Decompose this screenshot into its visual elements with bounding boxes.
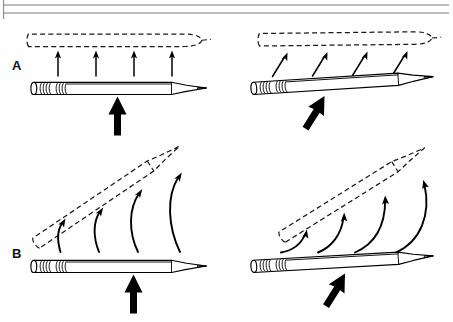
- rotation-arrow: [58, 219, 65, 253]
- displacement-arrow: [313, 52, 328, 76]
- rotation-arrow: [281, 230, 308, 253]
- rotation-arrows-b-left: [58, 173, 182, 253]
- panel-b-left-cell: [31, 141, 207, 313]
- rotation-arrow: [355, 196, 389, 253]
- displacement-arrow: [353, 52, 368, 76]
- displacement-arrows-a-left: [55, 51, 175, 77]
- pencil-eraser-cap: [31, 260, 37, 272]
- pencil-eraser-cap: [251, 260, 257, 273]
- pencil-eraser-cap: [31, 82, 37, 94]
- rotation-arrow: [131, 189, 142, 252]
- panel-a: A: [12, 32, 441, 136]
- rotation-arrow: [170, 173, 182, 253]
- header-rules: [3, 0, 449, 19]
- panel-b-right-cell: [251, 143, 434, 308]
- panel-a-right-cell: [251, 32, 441, 131]
- displacement-arrows-a-right: [273, 51, 408, 77]
- pencil-force-diagram: A: [0, 0, 453, 322]
- displacement-arrow: [169, 51, 175, 77]
- displacement-arrow: [131, 51, 137, 77]
- displacement-arrow: [55, 51, 61, 77]
- displacement-arrow: [393, 51, 408, 75]
- ghost-pencil-b-left: [31, 141, 183, 249]
- ghost-pencil-a-right: [258, 32, 441, 46]
- figure-canvas: A: [0, 0, 453, 322]
- panel-b: B: [12, 141, 434, 313]
- rotation-arrow: [95, 208, 104, 253]
- pencil-a-right: [251, 71, 434, 95]
- applied-force-arrow-a-right: [303, 96, 325, 131]
- pencil-eraser-cap: [251, 82, 258, 95]
- ghost-pencil-b-right: [278, 143, 428, 243]
- applied-force-arrow-a-left: [109, 97, 127, 136]
- pencil-b-left: [31, 260, 207, 272]
- ghost-pencil-a-left: [27, 34, 211, 47]
- panel-b-label: B: [12, 246, 21, 261]
- panel-a-label: A: [12, 58, 22, 73]
- rotation-arrow: [396, 180, 429, 253]
- applied-force-arrow-b-left: [125, 275, 143, 314]
- displacement-arrow: [93, 51, 99, 77]
- pencil-b-right: [251, 250, 434, 272]
- applied-force-arrow-b-right: [323, 274, 345, 309]
- displacement-arrow: [273, 53, 288, 77]
- panel-a-left-cell: [27, 34, 211, 136]
- pencil-a-left: [31, 82, 207, 94]
